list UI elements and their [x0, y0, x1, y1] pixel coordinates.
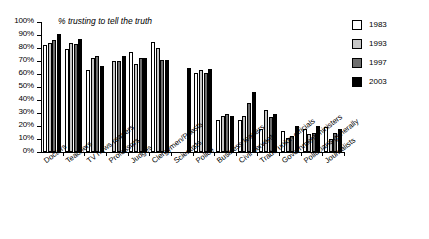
bar — [204, 73, 208, 152]
bar — [57, 34, 61, 152]
bar-group — [65, 22, 83, 152]
bar — [165, 60, 169, 152]
legend-swatch — [352, 58, 362, 68]
bar — [74, 44, 78, 152]
y-axis-tick-label: 40% — [19, 94, 34, 103]
legend-label: 1993 — [369, 39, 387, 48]
y-axis-tick-label: 50% — [19, 81, 34, 90]
y-axis-tick-mark — [37, 152, 41, 153]
legend-label: 1997 — [369, 58, 387, 67]
bar — [208, 69, 212, 152]
bar-group — [86, 22, 104, 152]
bar — [139, 58, 143, 152]
bar — [91, 58, 95, 152]
y-axis-tick-label: 30% — [19, 107, 34, 116]
y-axis-tick-label: 70% — [19, 55, 34, 64]
y-axis-tick-label: 20% — [19, 120, 34, 129]
bar — [216, 120, 220, 153]
bar — [160, 60, 164, 152]
bar-group — [43, 22, 61, 152]
bar — [100, 66, 104, 152]
bar — [95, 56, 99, 152]
bar — [156, 48, 160, 152]
bar-group — [151, 22, 169, 152]
bar-chart: % trusting to tell the truth 100%90%80%7… — [0, 0, 429, 239]
y-axis-tick-label: 80% — [19, 42, 34, 51]
bar — [151, 42, 155, 153]
y-axis-tick-label: 90% — [19, 29, 34, 38]
legend-label: 1983 — [369, 20, 387, 29]
bar — [43, 45, 47, 152]
legend-swatch — [352, 39, 362, 49]
y-axis-tick-label: 10% — [19, 133, 34, 142]
bar — [221, 116, 225, 152]
y-axis-tick-label: 100% — [14, 16, 34, 25]
bar — [78, 39, 82, 152]
bar-group — [216, 22, 234, 152]
bar — [247, 103, 251, 152]
bar — [48, 43, 52, 152]
legend-label: 2003 — [369, 77, 387, 86]
bar — [65, 49, 69, 152]
legend-swatch — [352, 20, 362, 30]
y-axis-tick-label: 0% — [23, 146, 34, 155]
bar — [69, 43, 73, 152]
bar — [52, 40, 56, 152]
legend-swatch — [352, 77, 362, 87]
bar — [143, 58, 147, 152]
y-axis-tick-label: 60% — [19, 68, 34, 77]
